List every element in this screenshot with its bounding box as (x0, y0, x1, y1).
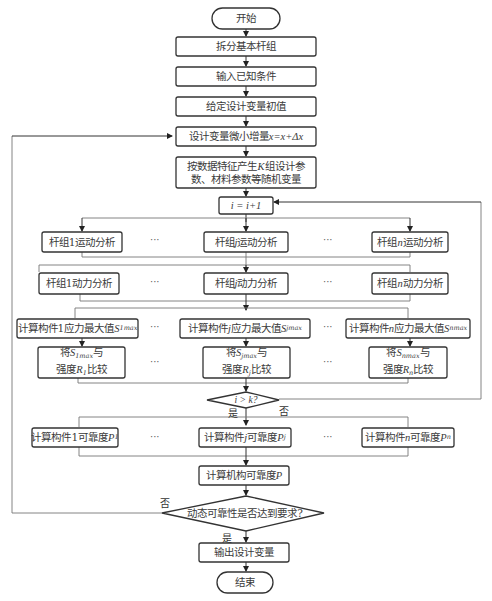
start-label: 开始 (212, 8, 280, 29)
kinematic-analysis-j: 杆组j运动分析 (204, 232, 288, 252)
compare-strength-j: 将Sjmax与 强度Rj比较 (203, 347, 290, 378)
split-groups-step: 拆分基本杆组 (176, 37, 316, 56)
random-vars-line1: 按数据特征产生K组设计参 (187, 160, 304, 173)
stress-max-1: 计算构件1应力最大值S1max (17, 319, 138, 338)
end-label: 结束 (217, 572, 273, 593)
ellipsis: ··· (150, 356, 160, 367)
component-reliability-j: 计算构件j可靠度Pj (199, 428, 291, 447)
ellipsis: ··· (323, 234, 333, 245)
increment-formula: x=x+Δx (269, 130, 303, 143)
dynamic-analysis-1: 杆组1动力分析 (39, 273, 119, 294)
kinematic-analysis-1: 杆组1运动分析 (42, 232, 122, 252)
mechanism-reliability-step: 计算机构可靠度P (199, 466, 289, 485)
counter-step: i = i+1 (219, 197, 273, 214)
stress-max-j: 计算构件j应力最大值Sjmax (180, 319, 310, 338)
ellipsis: ··· (323, 276, 333, 287)
loop-check-yes: 是 (228, 405, 238, 420)
increment-text: 设计变量微小增量 (189, 130, 269, 143)
output-vars-step: 输出设计变量 (199, 543, 289, 562)
ellipsis: ··· (150, 234, 160, 245)
ellipsis: ··· (150, 431, 160, 442)
compare-strength-1: 将S1max与 强度R1比较 (38, 347, 125, 378)
kinematic-analysis-n: 杆组n运动分析 (372, 232, 448, 252)
ellipsis: ··· (150, 321, 160, 332)
component-reliability-1: 计算构件1可靠度P1 (32, 428, 118, 447)
reliability-check-no: 否 (160, 495, 170, 510)
increment-step: 设计变量微小增量x=x+Δx (176, 127, 316, 146)
init-vars-step: 给定设计变量初值 (176, 97, 316, 116)
random-vars-step: 按数据特征产生K组设计参 数、材料参数等随机变量 (176, 157, 316, 188)
loop-check-no: 否 (279, 403, 289, 418)
ellipsis: ··· (150, 276, 160, 287)
stress-max-n: 计算构件n应力最大值Snmax (346, 319, 470, 338)
compare-strength-n: 将Snmax与 强度Rn比较 (369, 347, 447, 378)
ellipsis: ··· (323, 356, 333, 367)
reliability-check-label: 动态可靠性是否达到要求? (180, 506, 310, 520)
input-known-step: 输入已知条件 (176, 67, 316, 86)
dynamic-analysis-n: 杆组n动力分析 (372, 273, 448, 294)
ellipsis: ··· (323, 321, 333, 332)
dynamic-analysis-j: 杆组j动力分析 (204, 273, 288, 294)
random-vars-line2: 数、材料参数等随机变量 (191, 173, 301, 186)
component-reliability-n: 计算构件n可靠度Pn (362, 428, 454, 447)
ellipsis: ··· (323, 431, 333, 442)
